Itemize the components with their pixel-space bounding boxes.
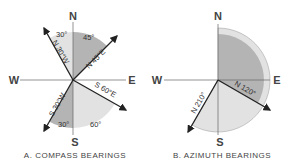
angle-label-n45e: 45° — [83, 33, 94, 42]
cardinal-s: S — [216, 136, 223, 148]
cardinal-s: S — [71, 136, 78, 148]
caption-azimuth-bearings: B. AZIMUTH BEARINGS — [173, 151, 271, 160]
angle-label-s30w: 30° — [58, 120, 69, 129]
compass-bearings-diagram: N E S W N 30°W N 45°E S 60°E S 30°W 30° … — [9, 10, 136, 160]
azimuth-bearings-diagram: N E S W N 120° N 210° B. AZIMUTH BEARING… — [152, 10, 281, 160]
angle-label-n30w: 30° — [56, 30, 67, 39]
caption-compass-bearings: A. COMPASS BEARINGS — [24, 151, 126, 160]
cardinal-w: W — [152, 74, 163, 86]
cardinal-w: W — [9, 74, 20, 86]
cardinal-e: E — [128, 74, 135, 86]
cardinal-e: E — [273, 74, 280, 86]
angle-label-s60e: 60° — [90, 120, 101, 129]
cardinal-n: N — [69, 10, 77, 22]
cardinal-n: N — [214, 10, 222, 22]
bearings-figure: N E S W N 30°W N 45°E S 60°E S 30°W 30° … — [0, 0, 289, 164]
